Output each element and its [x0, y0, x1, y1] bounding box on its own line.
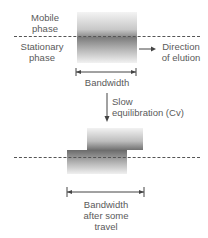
- down-arrow-icon: [105, 93, 110, 122]
- elution-arrow-icon: [139, 47, 156, 52]
- bandwidth-dimension-bottom-icon: [67, 187, 144, 197]
- diagram-arrows: [0, 0, 208, 238]
- bandwidth-dimension-top-icon: [76, 68, 136, 76]
